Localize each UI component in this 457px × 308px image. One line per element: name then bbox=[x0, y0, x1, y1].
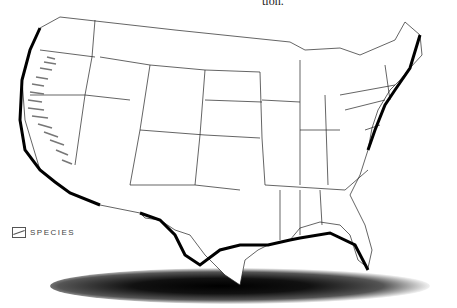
us-outline bbox=[22, 17, 422, 285]
us-map bbox=[0, 0, 457, 308]
legend: SPECIES bbox=[12, 227, 75, 238]
legend-label: SPECIES bbox=[30, 228, 75, 237]
hatch-swatch-icon bbox=[12, 227, 26, 238]
